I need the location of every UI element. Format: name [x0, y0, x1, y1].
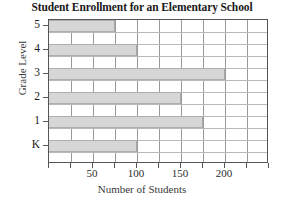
- y-axis-tick-label: 5: [20, 18, 40, 30]
- gridline-horizontal: [49, 104, 267, 105]
- gridline-horizontal: [49, 32, 267, 33]
- x-axis-tick: [48, 163, 49, 168]
- gridline-horizontal: [49, 128, 267, 129]
- x-axis-tick: [268, 163, 269, 168]
- x-axis-tick-label: 150: [160, 167, 200, 179]
- y-axis-tick: [43, 145, 48, 146]
- y-axis-tick-label: K: [20, 138, 40, 150]
- bar-4: [49, 44, 137, 56]
- bar-2: [49, 92, 181, 104]
- y-axis-tick: [43, 49, 48, 50]
- y-axis-tick-label: 4: [20, 42, 40, 54]
- bar-5: [49, 20, 115, 32]
- gridline-horizontal: [49, 152, 267, 153]
- x-axis-tick: [114, 163, 115, 168]
- y-axis-tick: [43, 97, 48, 98]
- y-axis-tick-label: 3: [20, 66, 40, 78]
- chart-title: Student Enrollment for an Elementary Sch…: [0, 1, 284, 13]
- y-axis-tick-label: 1: [20, 114, 40, 126]
- y-axis-tick: [43, 25, 48, 26]
- x-axis-title: Number of Students: [0, 183, 284, 195]
- bar-K: [49, 140, 137, 152]
- x-axis-tick-label: 50: [72, 167, 112, 179]
- gridline-horizontal: [49, 56, 267, 57]
- x-axis-tick-label: 200: [204, 167, 244, 179]
- plot-area: [48, 19, 268, 163]
- x-axis-tick: [202, 163, 203, 168]
- gridline-horizontal: [49, 80, 267, 81]
- y-axis-tick: [43, 121, 48, 122]
- bar-3: [49, 68, 225, 80]
- bar-chart: Student Enrollment for an Elementary Sch…: [0, 0, 284, 204]
- x-axis-tick-label: 100: [116, 167, 156, 179]
- x-axis-tick: [158, 163, 159, 168]
- x-axis-tick: [246, 163, 247, 168]
- y-axis-tick: [43, 73, 48, 74]
- bar-1: [49, 116, 203, 128]
- x-axis-tick: [70, 163, 71, 168]
- y-axis-tick-label: 2: [20, 90, 40, 102]
